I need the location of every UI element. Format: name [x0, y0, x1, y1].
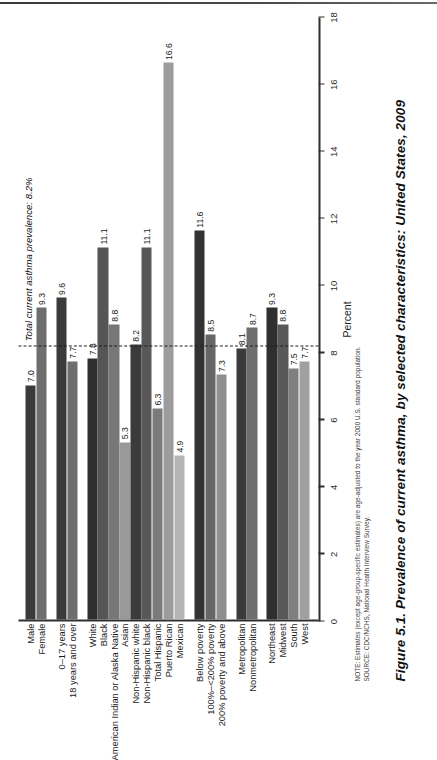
bar-value-label: 9.6: [56, 282, 66, 294]
value-axis-tick: [318, 620, 324, 621]
bar: [141, 247, 151, 619]
bar: [299, 361, 309, 619]
bar: [236, 348, 246, 620]
bar-value-label: 8.8: [277, 309, 287, 321]
value-axis-tick: [318, 553, 324, 554]
category-label: 0–17 years: [56, 623, 66, 669]
total-prevalence-annotation: Total current asthma prevalence: 8.2%: [23, 177, 34, 341]
bar-value-label: 7.7: [67, 346, 77, 358]
category-label: Asian: [119, 623, 129, 646]
value-axis-tick-label: 0: [327, 618, 338, 623]
bar: [119, 442, 129, 620]
bar: [108, 324, 118, 619]
total-prevalence-reference-line: [18, 345, 318, 346]
category-label: West: [299, 623, 309, 644]
value-axis-tick-label: 12: [327, 213, 338, 224]
bar-value-label: 7.7: [299, 346, 309, 358]
figure-caption-text: Prevalence of current asthma, by selecte…: [392, 99, 407, 608]
bar: [266, 307, 276, 619]
value-axis-tick-label: 14: [327, 146, 338, 157]
category-label: Total Hispanic: [152, 623, 162, 681]
value-axis-tick-label: 10: [327, 280, 338, 291]
bar: [87, 358, 97, 620]
category-label: 100%–<200% poverty: [205, 623, 215, 714]
source-line: SOURCE: CDC/NCHS, National Health Interv…: [361, 1, 370, 681]
bar-value-label: 8.1: [236, 333, 246, 345]
bar-value-label: 5.3: [119, 427, 129, 439]
value-axis-tick-label: 6: [327, 417, 338, 422]
bar: [277, 324, 287, 619]
value-axis-tick: [318, 83, 324, 84]
figure-caption: Figure 5.1. Prevalence of current asthma…: [392, 21, 407, 681]
bar: [36, 307, 46, 619]
bar-chart-plot-area: 024681012141618 7.09.39.67.77.811.18.85.…: [18, 17, 318, 621]
bar-value-label: 16.6: [163, 43, 173, 60]
category-label: American Indian or Alaska Native: [109, 623, 119, 760]
category-label: South: [288, 623, 298, 647]
value-axis-tick: [318, 16, 324, 17]
value-axis-tick: [318, 418, 324, 419]
bar-value-label: 11.1: [98, 228, 108, 244]
bar-value-label: 4.9: [174, 440, 184, 452]
category-label: Nonmetropolitan: [247, 623, 257, 691]
category-labels-layer: MaleFemale0–17 years18 years and overWhi…: [18, 623, 318, 723]
value-axis-tick: [318, 351, 324, 352]
value-axis-tick-label: 18: [327, 12, 338, 23]
category-label: Non-Hispanic black: [141, 623, 151, 703]
bar-value-label: 7.5: [288, 353, 298, 365]
value-axis-title: Percent: [340, 17, 352, 621]
bar-value-label: 7.0: [25, 370, 35, 382]
bar-value-label: 7.3: [216, 360, 226, 372]
bar-value-label: 9.3: [266, 292, 276, 304]
bar: [205, 334, 215, 619]
bar-value-label: 11.1: [141, 228, 151, 244]
bar-value-label: 8.2: [130, 329, 140, 341]
bar: [216, 374, 226, 619]
bar: [97, 247, 107, 619]
notes-block: NOTE: Estimates (except age-group-specif…: [352, 1, 371, 681]
bar: [288, 368, 298, 620]
category-label: Mexican: [174, 623, 184, 658]
category-label: Non-Hispanic white: [130, 623, 140, 703]
bar: [194, 230, 204, 619]
bar-value-label: 6.3: [152, 393, 162, 405]
bar: [152, 408, 162, 619]
value-axis-line: [318, 17, 320, 621]
category-label: White: [87, 623, 97, 647]
value-axis-tick-label: 2: [327, 551, 338, 556]
bar-value-label: 11.6: [194, 211, 204, 227]
note-line: NOTE: Estimates (except age-group-specif…: [352, 1, 361, 681]
category-label: Puerto Rican: [163, 623, 173, 677]
category-label: 18 years and over: [67, 623, 77, 697]
bar: [174, 455, 184, 619]
category-label: Northeast: [266, 623, 276, 663]
bar-value-label: 8.5: [205, 319, 215, 331]
bar: [130, 344, 140, 619]
category-label: Female: [36, 623, 46, 654]
bar: [67, 361, 77, 619]
value-axis-tick-label: 8: [327, 350, 338, 355]
bar-value-label: 9.3: [36, 292, 46, 304]
bar: [25, 385, 35, 620]
category-label: Midwest: [277, 623, 287, 657]
value-axis-tick: [318, 485, 324, 486]
bar: [246, 327, 256, 619]
value-axis-tick: [318, 284, 324, 285]
value-axis-tick-label: 16: [327, 79, 338, 90]
figure-number: Figure 5.1.: [392, 612, 407, 681]
category-label: Below poverty: [194, 623, 204, 681]
value-axis-tick-label: 4: [327, 484, 338, 489]
category-label: 200% poverty and above: [216, 623, 226, 726]
category-label: Male: [25, 623, 35, 643]
bar: [163, 62, 173, 619]
bar-value-label: 8.7: [247, 313, 257, 325]
category-label: Black: [98, 623, 108, 646]
value-axis-tick: [318, 217, 324, 218]
category-label: Metropolitan: [236, 623, 246, 674]
value-axis-tick: [318, 150, 324, 151]
bar-value-label: 8.8: [109, 309, 119, 321]
